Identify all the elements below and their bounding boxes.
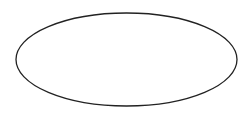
diagram-canvas [0, 0, 250, 113]
ellipse-shape[interactable] [16, 13, 237, 106]
diagram-svg [0, 0, 250, 113]
